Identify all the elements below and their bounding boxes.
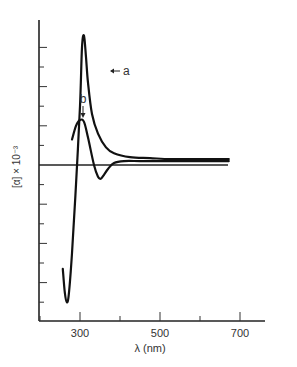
x-tick-label: 300 (71, 327, 89, 339)
x-tick-label: 700 (231, 327, 249, 339)
optical-rotation-chart: 300500700 ab λ (nm) [α] × 10⁻³ (0, 0, 297, 367)
y-axis-label: [α] × 10⁻³ (11, 145, 22, 188)
series-group (63, 35, 229, 302)
x-tick-label: 500 (151, 327, 169, 339)
label-b: b (80, 92, 87, 106)
series-a-curve (63, 35, 229, 302)
label-a: a (123, 64, 130, 78)
x-axis-label: λ (nm) (134, 342, 165, 354)
axes: 300500700 (39, 20, 265, 339)
